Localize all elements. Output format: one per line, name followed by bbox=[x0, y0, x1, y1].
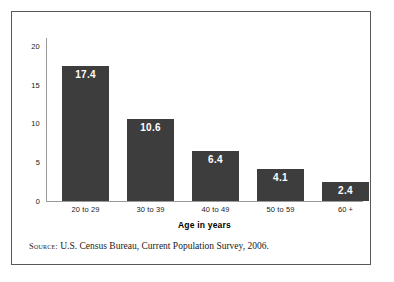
bar[interactable]: 4.1 bbox=[257, 169, 304, 201]
bar-group: 10.6 bbox=[127, 119, 174, 201]
x-axis-category-label: 20 to 29 bbox=[62, 205, 109, 214]
bar[interactable]: 10.6 bbox=[127, 119, 174, 201]
source-note: Source: U.S. Census Bureau, Current Popu… bbox=[29, 241, 269, 251]
x-axis-category-label: 50 to 59 bbox=[257, 205, 304, 214]
x-axis-title: Age in years bbox=[46, 220, 363, 230]
x-axis-category-label: 30 to 39 bbox=[127, 205, 174, 214]
bar-group: 6.4 bbox=[192, 151, 239, 201]
bar-value-label: 2.4 bbox=[322, 185, 369, 196]
bar-value-label: 4.1 bbox=[257, 172, 304, 183]
bar-value-label: 6.4 bbox=[192, 154, 239, 165]
x-axis-category-label: 40 to 49 bbox=[192, 205, 239, 214]
bar-value-label: 17.4 bbox=[62, 69, 109, 80]
figure-frame: 05101520 17.410.66.44.12.4 20 to 2930 to… bbox=[11, 11, 371, 265]
bar[interactable]: 17.4 bbox=[62, 66, 109, 201]
x-axis-category-label: 60 + bbox=[322, 205, 369, 214]
bar-value-label: 10.6 bbox=[127, 122, 174, 133]
x-axis-line bbox=[46, 201, 363, 202]
bar-group: 17.4 bbox=[62, 66, 109, 201]
bar-chart: 05101520 17.410.66.44.12.4 20 to 2930 to… bbox=[12, 12, 372, 266]
bars-layer: 17.410.66.44.12.4 bbox=[12, 12, 372, 201]
bar-group: 2.4 bbox=[322, 182, 369, 201]
bar[interactable]: 2.4 bbox=[322, 182, 369, 201]
bar[interactable]: 6.4 bbox=[192, 151, 239, 201]
source-note-label: Source: bbox=[29, 241, 58, 251]
source-note-text: U.S. Census Bureau, Current Population S… bbox=[58, 241, 269, 251]
bar-group: 4.1 bbox=[257, 169, 304, 201]
